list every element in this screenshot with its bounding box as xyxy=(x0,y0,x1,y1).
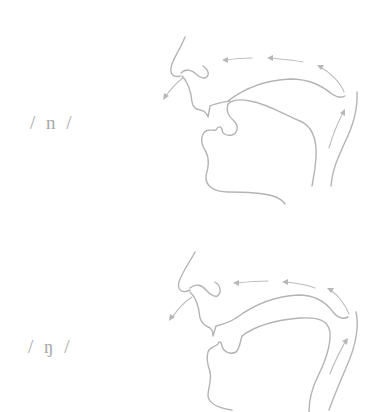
lower-lip xyxy=(202,104,238,152)
nostril xyxy=(190,282,220,296)
airflow-arrow-out-nose xyxy=(172,297,192,318)
arrowhead-icon xyxy=(317,65,324,70)
airflow-arrow-out-nose xyxy=(165,77,184,97)
airflow-arrow-nasal-2 xyxy=(225,58,252,60)
arrowhead-icon xyxy=(282,279,288,285)
nostril xyxy=(181,66,208,78)
chin-jaw xyxy=(208,372,232,410)
airflow-arrow-nasal-1 xyxy=(270,58,303,62)
articulation-diagrams xyxy=(0,0,378,412)
palate xyxy=(236,295,348,318)
arrowhead-icon xyxy=(233,280,239,286)
arrowhead-icon xyxy=(342,338,348,345)
upper-lip xyxy=(182,76,230,117)
arrowhead-icon xyxy=(267,55,273,61)
diagram-n xyxy=(163,37,357,204)
palate xyxy=(228,79,345,101)
arrowhead-icon xyxy=(163,93,169,100)
chin-jaw xyxy=(206,152,285,204)
upper-lip xyxy=(190,292,236,336)
airflow-arrow-velum xyxy=(330,290,349,314)
tongue xyxy=(228,100,316,186)
pharynx-wall xyxy=(331,92,357,186)
airflow-arrow-nasal-1 xyxy=(286,282,315,288)
airflow-arrow-throat xyxy=(330,340,346,374)
pharynx-wall xyxy=(329,312,357,410)
tongue xyxy=(242,318,330,412)
nose-outline xyxy=(171,37,185,77)
airflow-arrow-throat xyxy=(329,111,344,148)
arrowhead-icon xyxy=(222,57,228,63)
diagram-ng xyxy=(169,252,357,412)
airflow-arrow-nasal-2 xyxy=(237,281,268,283)
lower-lip xyxy=(207,336,242,372)
